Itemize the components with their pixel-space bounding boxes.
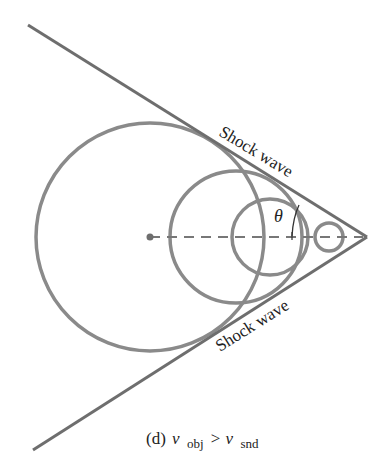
- angle-theta-label: θ: [274, 206, 283, 226]
- caption-v-obj: v: [172, 429, 180, 448]
- caption: (d) v obj > v snd: [146, 429, 259, 452]
- caption-greater-than: >: [211, 429, 221, 448]
- shock-wave-line-upper: [28, 25, 367, 237]
- svg-text:(d) v obj >: (d) v obj > v snd: [146, 429, 259, 452]
- caption-sub-obj: obj: [187, 436, 204, 451]
- caption-prefix: (d): [146, 429, 166, 448]
- source-point: [147, 234, 154, 241]
- caption-v-snd: v: [226, 429, 234, 448]
- shock-wave-line-lower: [33, 237, 367, 450]
- shock-wave-diagram: θ Shock wave Shock wave (d) v obj > v sn…: [0, 0, 389, 476]
- caption-sub-snd: snd: [240, 436, 259, 451]
